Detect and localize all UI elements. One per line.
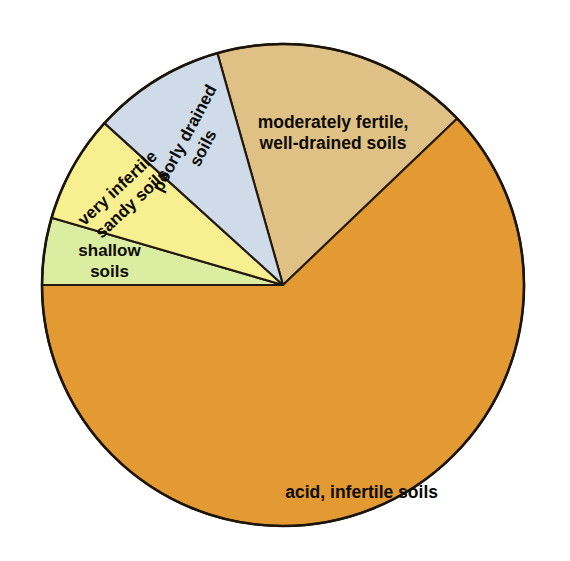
pie-slice-label-line: acid, infertile soils (285, 482, 438, 502)
pie-slice-label-line: shallow (78, 242, 141, 261)
pie-chart-svg: moderately fertile,well-drained soilsaci… (0, 0, 570, 561)
pie-slice-label-line: well-drained soils (259, 133, 407, 153)
pie-slice-label: moderately fertile,well-drained soils (258, 112, 409, 153)
pie-slice-label-line: moderately fertile, (258, 112, 409, 132)
pie-slice-label: acid, infertile soils (285, 482, 438, 502)
pie-chart-figure: moderately fertile,well-drained soilsaci… (0, 0, 570, 561)
pie-slice-label-line: soils (90, 263, 129, 282)
